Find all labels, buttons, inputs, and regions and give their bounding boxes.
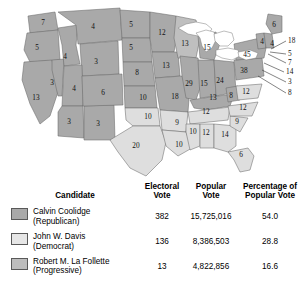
vote-label-new-mexico: 3 <box>96 119 100 128</box>
state-nebraska <box>123 62 155 86</box>
vote-label-texas: 20 <box>132 141 140 150</box>
state-arizona <box>58 106 84 138</box>
swatch-davis <box>11 233 28 245</box>
table-row: Calvin Coolidge(Republican)38215,725,016… <box>11 204 303 229</box>
vote-label-missouri: 18 <box>171 92 179 101</box>
map-svg: 7513344343365581010201213189101329151524… <box>0 0 305 182</box>
vote-label-idaho: 4 <box>63 52 67 61</box>
vote-label-virginia: 12 <box>242 87 250 96</box>
col-header-percentage-line2: Popular Vote <box>245 191 295 200</box>
vote-label-wyoming: 3 <box>94 57 98 66</box>
table-row: John W. Davis(Democrat)1368,386,50328.8 <box>11 229 303 254</box>
candidate-name: Robert M. La Follette <box>33 257 109 266</box>
vote-label-pennsylvania: 38 <box>240 66 248 75</box>
vote-label-minnesota: 12 <box>158 28 166 37</box>
vote-label-connecticut: 7 <box>288 58 292 67</box>
election-map-figure: 7513344343365581010201213189101329151524… <box>0 0 305 291</box>
vote-label-new-jersey: 14 <box>286 67 294 76</box>
leader-line-new-jersey <box>264 63 284 72</box>
vote-label-maryland: 8 <box>288 88 292 97</box>
vote-label-iowa: 13 <box>162 61 170 70</box>
leader-line-delaware <box>262 70 286 82</box>
candidate-cell: Robert M. La Follette(Progressive) <box>11 254 139 279</box>
state-oregon <box>24 30 60 62</box>
table-body: Calvin Coolidge(Republican)38215,725,016… <box>11 204 303 279</box>
state-arkansas <box>160 110 188 132</box>
vote-label-nebraska: 8 <box>135 68 139 77</box>
vote-label-arizona: 3 <box>67 117 71 126</box>
callout-vote-labels: 18571438 <box>286 36 296 97</box>
popular-vote-cell: 4,822,856 <box>185 254 237 279</box>
vote-label-north-dakota: 5 <box>129 20 133 29</box>
vote-label-montana: 4 <box>91 22 95 31</box>
swatch-coolidge <box>11 208 28 220</box>
vote-label-louisiana: 10 <box>175 140 183 149</box>
vote-label-mississippi: 10 <box>189 127 197 136</box>
table-header: Candidate Electoral Vote Popular Vote Pe… <box>11 182 303 204</box>
vote-label-georgia: 14 <box>221 130 229 139</box>
vote-label-utah: 4 <box>72 84 76 93</box>
electoral-vote-cell: 13 <box>139 254 185 279</box>
vote-label-illinois: 29 <box>185 79 193 88</box>
vote-label-indiana: 15 <box>200 79 208 88</box>
vote-label-wisconsin: 13 <box>181 39 189 48</box>
state-south-dakota <box>122 38 152 62</box>
vote-label-ohio: 24 <box>216 76 224 85</box>
candidate-cell: John W. Davis(Democrat) <box>11 229 139 254</box>
vote-label-delaware: 3 <box>288 77 292 86</box>
vote-label-north-carolina: 12 <box>239 103 247 112</box>
election-results-table: Candidate Electoral Vote Popular Vote Pe… <box>11 182 303 279</box>
vote-label-kentucky: 13 <box>209 93 217 102</box>
vote-label-maine: 6 <box>272 20 276 29</box>
vote-label-oklahoma: 10 <box>144 112 152 121</box>
leader-line-rhode-island <box>270 52 286 54</box>
vote-label-new-hampshire: 4 <box>270 39 274 48</box>
vote-label-michigan: 15 <box>203 43 211 52</box>
popular-vote-cell: 15,725,016 <box>185 204 237 229</box>
col-header-electoral-vote-line2: Vote <box>153 191 170 200</box>
leader-line-maryland <box>258 76 286 93</box>
candidate-party: (Republican) <box>33 217 90 226</box>
table-header-row: Candidate Electoral Vote Popular Vote Pe… <box>11 182 303 204</box>
electoral-vote-cell: 136 <box>139 229 185 254</box>
state-oklahoma <box>125 108 160 126</box>
vote-label-california: 13 <box>32 93 40 102</box>
vote-label-alabama: 12 <box>202 128 210 137</box>
state-wyoming <box>80 41 119 76</box>
vote-label-vermont: 4 <box>260 37 264 46</box>
state-texas <box>110 126 166 176</box>
vote-label-rhode-island: 5 <box>288 49 292 58</box>
us-electoral-map: 7513344343365581010201213189101329151524… <box>0 0 305 182</box>
col-header-popular-vote-line2: Vote <box>202 191 219 200</box>
vote-label-kansas: 10 <box>139 93 147 102</box>
col-header-popular-vote: Popular Vote <box>185 182 237 204</box>
candidate-name: Calvin Coolidge <box>33 207 90 216</box>
candidate-party: (Democrat) <box>33 242 85 251</box>
col-header-electoral-vote-line1: Electoral <box>145 182 180 191</box>
col-header-electoral-vote: Electoral Vote <box>139 182 185 204</box>
vote-label-south-dakota: 5 <box>129 43 133 52</box>
electoral-vote-cell: 382 <box>139 204 185 229</box>
vote-label-west-virginia: 8 <box>229 91 233 100</box>
vote-label-washington: 7 <box>41 18 45 27</box>
vote-label-colorado: 6 <box>101 88 105 97</box>
vote-label-massachusetts: 18 <box>288 36 296 45</box>
vote-label-tennessee: 12 <box>202 107 210 116</box>
vote-label-florida: 6 <box>239 150 243 159</box>
results-table-container: Candidate Electoral Vote Popular Vote Pe… <box>0 182 305 291</box>
leader-line-connecticut <box>268 54 286 63</box>
vote-label-new-york: 45 <box>243 50 251 59</box>
vote-label-nevada: 3 <box>50 78 54 87</box>
col-header-popular-vote-line1: Popular <box>196 182 226 191</box>
candidate-party: (Progressive) <box>33 266 109 275</box>
percentage-cell: 28.8 <box>237 229 303 254</box>
candidate-cell: Calvin Coolidge(Republican) <box>11 204 139 229</box>
vote-label-south-carolina: 9 <box>235 117 239 126</box>
candidate-name: John W. Davis <box>33 232 85 241</box>
col-header-percentage-line1: Percentage of <box>243 182 297 191</box>
swatch-lafollette <box>11 258 28 270</box>
col-header-percentage: Percentage of Popular Vote <box>237 182 303 204</box>
percentage-cell: 16.6 <box>237 254 303 279</box>
vote-label-arkansas: 9 <box>175 118 179 127</box>
popular-vote-cell: 8,386,503 <box>185 229 237 254</box>
